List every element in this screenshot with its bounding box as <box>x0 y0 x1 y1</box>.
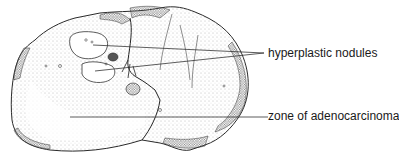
dark-nodule-lower <box>126 83 140 95</box>
label-hyperplastic-nodules: hyperplastic nodules <box>268 46 377 60</box>
hyperplastic-nodule-lower <box>82 62 115 83</box>
dark-nodule <box>108 53 118 61</box>
label-zone-of-adenocarcinoma: zone of adenocarcinoma <box>268 109 399 123</box>
